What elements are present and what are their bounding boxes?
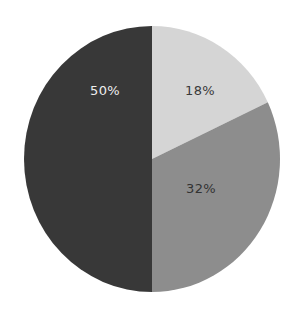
pie-slices <box>24 26 280 292</box>
pie-slice-50 <box>24 26 152 292</box>
slice-label-18: 18% <box>185 83 215 98</box>
pie-chart: 18% 32% 50% <box>0 0 298 314</box>
slice-label-32: 32% <box>186 181 216 196</box>
slice-label-50: 50% <box>90 83 120 98</box>
